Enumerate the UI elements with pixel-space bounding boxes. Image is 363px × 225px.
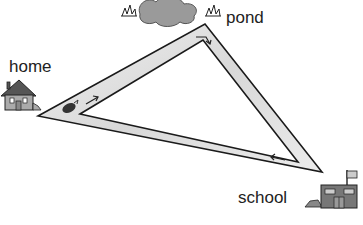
home-label: home: [9, 58, 52, 75]
pond-label: pond: [226, 9, 264, 26]
school-label: school: [238, 189, 287, 206]
pond-icon: [139, 0, 196, 27]
triangle-path: [38, 24, 322, 172]
school-icon: [305, 170, 357, 208]
house-icon: [1, 80, 41, 110]
route-diagram: [0, 0, 363, 225]
